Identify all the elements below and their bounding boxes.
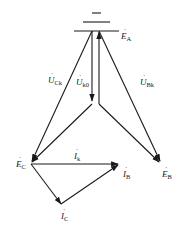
svg-text:UCk: UCk	[48, 75, 63, 86]
phasor-diagram: · EA · UCk · Uk0 · UBk · EC · Ik · IB · …	[0, 0, 181, 232]
svg-text:EA: EA	[120, 31, 132, 42]
label-UCk: · UCk	[48, 70, 63, 86]
phasor-UBk	[99, 31, 160, 161]
svg-text:UBk: UBk	[140, 77, 155, 88]
label-IC: · IC	[60, 206, 68, 222]
label-EC: · EC	[15, 154, 26, 170]
svg-text:EB: EB	[161, 169, 173, 180]
label-Uk0: · Uk0	[76, 72, 89, 88]
svg-text:Uk0: Uk0	[76, 77, 89, 88]
phasor-IC	[31, 164, 61, 204]
label-IB: · IB	[122, 164, 131, 180]
phasor-k-to-EC	[32, 104, 92, 162]
label-EA: · EA	[120, 26, 132, 42]
phasor-IB	[61, 165, 118, 204]
phasor-UCk	[32, 31, 92, 161]
label-EB: · EB	[161, 164, 173, 180]
label-UBk: · UBk	[140, 72, 155, 88]
label-Ik: · Ik	[73, 146, 81, 162]
ground-symbol	[74, 13, 119, 31]
svg-text:EC: EC	[15, 159, 26, 170]
phasor-k-to-EB	[99, 104, 159, 162]
